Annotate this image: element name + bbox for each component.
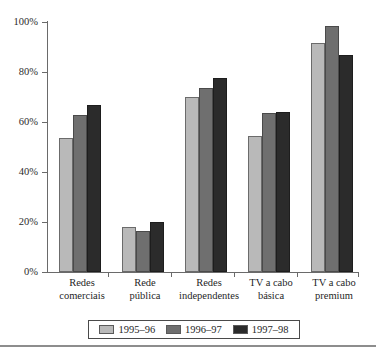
legend-item-1997-98: 1997–98 [233, 325, 289, 335]
bar-group-redes-independentes [185, 22, 227, 272]
bar [73, 115, 87, 273]
bar-chart: 100% 80% 60% 40% 20% 0% Redes comerciais… [0, 0, 376, 353]
bar [311, 43, 325, 272]
y-axis-label-100: 100% [0, 17, 38, 27]
x-axis-label-tv-a-cabo-premium: TV a cabo premium [291, 277, 376, 302]
legend-swatch-1995-96-icon [99, 325, 114, 334]
y-axis-label-80: 80% [0, 67, 38, 77]
bar [276, 112, 290, 272]
legend-swatch-1996-97-icon [166, 325, 181, 334]
bar [262, 113, 276, 272]
y-axis-label-0: 0% [0, 267, 38, 277]
legend-item-1996-97: 1996–97 [166, 325, 222, 335]
legend-label-1997-98: 1997–98 [252, 325, 289, 335]
legend-item-1995-96: 1995–96 [99, 325, 155, 335]
bar [87, 105, 101, 273]
bottom-divider [0, 345, 376, 347]
bar [248, 136, 262, 272]
bar-group-tv-a-cabo-basica [248, 22, 290, 272]
bar-group-redes-comerciais [59, 22, 101, 272]
bar-group-tv-a-cabo-premium [311, 22, 353, 272]
y-axis-label-60: 60% [0, 117, 38, 127]
bar [199, 88, 213, 272]
legend-label-1995-96: 1995–96 [118, 325, 155, 335]
legend-label-1996-97: 1996–97 [185, 325, 222, 335]
y-axis-label-20: 20% [0, 217, 38, 227]
bar [213, 78, 227, 272]
bar [325, 26, 339, 272]
bar [150, 222, 164, 272]
y-tick-mark [42, 272, 48, 273]
chart-legend: 1995–96 1996–97 1997–98 [88, 320, 300, 339]
bar [59, 138, 73, 272]
bar-group-rede-publica [122, 22, 164, 272]
bar [122, 227, 136, 272]
bar [339, 55, 353, 273]
bar [185, 97, 199, 272]
bar [136, 231, 150, 272]
x-axis-line [47, 272, 359, 273]
y-axis-label-40: 40% [0, 167, 38, 177]
legend-swatch-1997-98-icon [233, 325, 248, 334]
plot-area [48, 22, 358, 272]
